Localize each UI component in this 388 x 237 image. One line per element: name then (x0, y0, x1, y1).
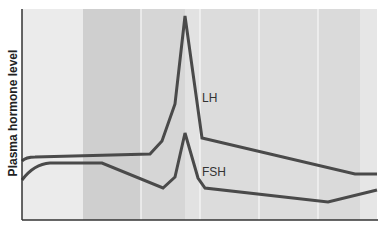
fsh-label: FSH (202, 165, 226, 179)
chart-plot (0, 0, 388, 237)
lh-label: LH (202, 91, 217, 105)
y-axis-label: Plasma hormone level (6, 48, 20, 178)
hormone-chart: Plasma hormone level LH FSH (0, 0, 388, 237)
